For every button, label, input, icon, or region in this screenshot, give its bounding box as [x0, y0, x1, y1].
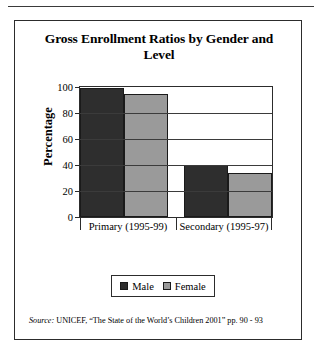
legend-item-male: Male	[120, 281, 154, 292]
x-axis-label: Secondary (1995-97)	[176, 221, 272, 232]
gridline	[80, 139, 272, 140]
bars-layer	[80, 87, 272, 217]
gridline	[80, 191, 272, 192]
gridline	[80, 113, 272, 114]
y-tick-label: 60	[39, 134, 80, 145]
legend-swatch-female	[163, 282, 171, 290]
source-label: Source:	[29, 316, 54, 325]
y-tick-mark	[75, 165, 80, 166]
y-tick-mark	[75, 139, 80, 140]
x-axis-separator	[271, 217, 272, 230]
legend-label: Female	[175, 281, 206, 292]
y-tick-label: 20	[39, 186, 80, 197]
y-tick-mark	[75, 191, 80, 192]
y-tick-label: 80	[39, 108, 80, 119]
y-tick-label: 0	[39, 212, 80, 223]
source-text: UNICEF, “The State of the World’s Childr…	[54, 316, 263, 325]
figure-frame: Gross Enrollment Ratios by Gender and Le…	[14, 20, 302, 340]
gridline	[80, 165, 272, 166]
legend-item-female: Female	[163, 281, 206, 292]
x-axis-label: Primary (1995-99)	[80, 221, 176, 232]
y-tick-label: 40	[39, 160, 80, 171]
y-tick-mark	[75, 113, 80, 114]
bar-female-2	[228, 173, 272, 217]
source-note: Source: UNICEF, “The State of the World’…	[29, 315, 291, 326]
bar-male-1	[80, 88, 124, 217]
x-axis-separator	[176, 217, 177, 230]
legend-label: Male	[132, 281, 154, 292]
legend-swatch-male	[120, 282, 128, 290]
header-rule	[8, 6, 314, 7]
y-tick-mark	[75, 87, 80, 88]
y-tick-label: 100	[39, 82, 80, 93]
plot-box: 020406080100Primary (1995-99)Secondary (…	[79, 86, 273, 218]
x-axis-separator	[80, 217, 81, 230]
chart-legend: MaleFemale	[111, 275, 215, 297]
